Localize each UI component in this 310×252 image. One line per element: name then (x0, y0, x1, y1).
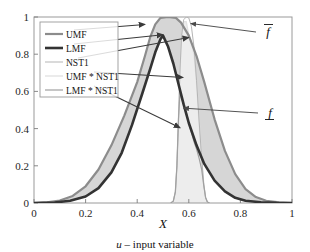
x-tick-label: 0.6 (182, 207, 196, 219)
legend-label-umf[interactable]: UMF (66, 30, 87, 40)
y-tick-label: 0.2 (15, 160, 29, 172)
x-tick-label: 0.4 (130, 207, 144, 219)
figure-container: 00.20.40.60.81 00.20.40.60.81 UMFLMFNST1… (0, 0, 310, 252)
y-tick-label: 0.4 (15, 123, 29, 135)
legend-label-nst1[interactable]: NST1 (66, 58, 89, 68)
x-axis-title: X (158, 216, 168, 231)
x-tick-label: 0.8 (234, 207, 248, 219)
y-tick-label: 1 (24, 11, 30, 23)
x-tick-label: 0 (31, 207, 37, 219)
x-tick-label: 0.2 (79, 207, 93, 219)
legend[interactable]: UMFLMFNST1UMF * NST1LMF * NST1 (40, 22, 119, 97)
y-tick-label: 0.6 (15, 85, 29, 97)
caption-rest: – input variable (122, 238, 194, 250)
legend-label-lmf-nst1[interactable]: LMF * NST1 (66, 86, 118, 96)
figure-caption: u – input variable (116, 238, 193, 250)
y-tick-label: 0.8 (15, 48, 29, 60)
x-tick-label: 1 (289, 207, 295, 219)
y-tick-label: 0 (24, 197, 30, 209)
membership-function-chart: 00.20.40.60.81 00.20.40.60.81 UMFLMFNST1… (0, 0, 310, 252)
legend-label-umf-nst1[interactable]: UMF * NST1 (66, 72, 119, 82)
legend-label-lmf[interactable]: LMF (66, 44, 86, 54)
